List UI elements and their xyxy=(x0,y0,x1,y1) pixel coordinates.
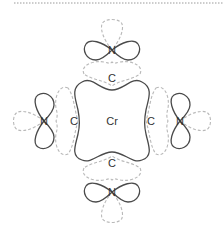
orbital-diagram: Cr C C C C N N N N xyxy=(0,0,224,233)
n-label-left: N xyxy=(40,115,48,127)
n-label-top: N xyxy=(108,44,116,56)
cr-label: Cr xyxy=(106,115,118,127)
n-label-bottom: N xyxy=(108,186,116,198)
n-lone-pair-right xyxy=(180,111,211,130)
n-label-right: N xyxy=(176,115,184,127)
c-label-bottom: C xyxy=(108,157,116,169)
c-label-right: C xyxy=(147,115,155,127)
c-label-top: C xyxy=(108,72,116,84)
c-label-left: C xyxy=(70,115,78,127)
